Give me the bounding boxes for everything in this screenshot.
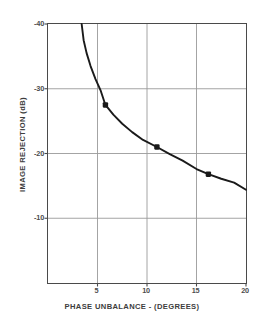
chart-figure: -40-30-20-10 5101520 PHASE UNBALANCE - (… [0, 0, 264, 329]
x-axis-tick-label: 20 [233, 286, 257, 295]
x-axis-tick-label: 5 [85, 286, 109, 295]
data-point-marker [103, 102, 108, 107]
data-point-marker [154, 144, 159, 149]
y-axis-title: IMAGE REJECTION (dB) [18, 65, 27, 225]
data-curve-layer [48, 24, 246, 283]
x-axis-tick-label: 15 [184, 286, 208, 295]
plot-area [47, 23, 247, 284]
x-axis-tick-label: 10 [134, 286, 158, 295]
x-axis-title: PHASE UNBALANCE - (DEGREES) [0, 302, 264, 311]
data-point-marker [206, 172, 211, 177]
y-axis-tick-label: -40 [0, 19, 44, 28]
